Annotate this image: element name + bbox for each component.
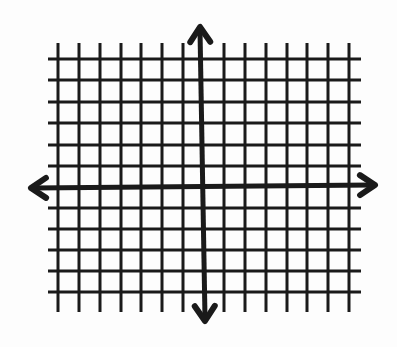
y-axis xyxy=(190,27,214,321)
coordinate-grid-diagram xyxy=(0,0,397,347)
y-axis-line xyxy=(200,30,205,318)
coordinate-plane xyxy=(0,0,397,347)
